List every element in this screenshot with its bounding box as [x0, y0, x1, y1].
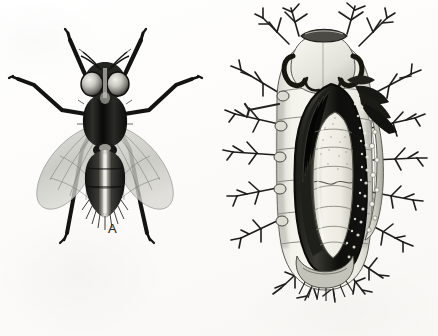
figure-plate: A — [0, 0, 438, 336]
compound-eye-right — [107, 72, 129, 96]
adult-fly-illustration — [0, 0, 219, 336]
figure-label-a: A — [108, 221, 117, 236]
head-capsule — [284, 29, 362, 94]
compound-eye-left — [81, 72, 103, 96]
larva-illustration — [219, 0, 438, 336]
panel-b-larva-dissection: B — [219, 0, 438, 336]
fly-head — [79, 49, 131, 104]
detached-spine — [245, 104, 279, 117]
panel-a-adult-fly: A — [0, 0, 219, 336]
